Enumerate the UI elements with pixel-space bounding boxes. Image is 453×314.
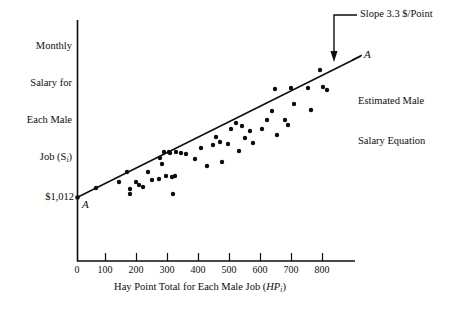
data-point [270,109,274,113]
regression-line-label-left: A [82,198,89,211]
data-point [260,127,264,131]
x-axis-ticks [106,253,323,261]
data-point [229,127,233,131]
data-point [168,151,172,155]
data-point [157,177,161,181]
x-tick-label-700: 700 [284,264,299,275]
y-intercept-label: $1,012 [18,191,74,203]
data-point [141,185,145,189]
data-point [128,192,132,196]
data-point [286,123,290,127]
data-point [158,156,162,160]
leader-arrowhead [331,51,338,62]
data-point [289,86,293,90]
regression-line-label-right: A [364,48,371,61]
data-point [273,87,277,91]
data-point [193,157,197,161]
data-point [318,68,322,72]
data-point [125,170,129,174]
x-axis-title-close-paren: ) [282,281,286,292]
data-point [162,150,166,154]
data-point [234,121,238,125]
x-axis-title: Hay Point Total for Each Male Job (HPi) [0,281,400,295]
y-axis-title-line-3: Each Male [0,114,72,126]
data-point [220,160,224,164]
slope-leader-line [331,15,358,62]
y-axis-title-line-1: Monthly [0,40,72,52]
y-axis-title: Monthly Salary for Each Male Job (Si) [0,15,72,190]
x-tick-label-200: 200 [129,264,144,275]
equation-caption-line-1: Estimated Male [358,94,425,107]
data-point [173,174,177,178]
data-point [325,88,329,92]
data-point [251,141,255,145]
x-tick-label-0: 0 [75,264,80,275]
data-point [174,150,178,154]
x-tick-label-100: 100 [98,264,113,275]
data-point [199,146,203,150]
x-tick-label-400: 400 [191,264,206,275]
data-point [306,86,310,90]
data-point [164,174,168,178]
data-point [275,133,279,137]
y-axis-title-line-2: Salary for [0,77,72,89]
data-point [184,152,188,156]
y-axis-title-line-4-text: Job (S [40,151,67,162]
scatter-points [94,68,329,196]
data-point [179,151,183,155]
slope-annotation-label: Slope 3.3 $/Point [360,8,433,20]
estimated-equation-caption: Estimated Male Salary Equation [358,68,425,173]
equation-label-connector [352,55,362,60]
data-point [146,170,150,174]
data-point [205,164,209,168]
scatter-plot-figure: Monthly Salary for Each Male Job (Si) $1… [0,0,453,314]
x-axis-title-variable: HP [266,281,280,292]
data-point [94,186,98,190]
data-point [226,142,230,146]
y-axis-title-close-paren: ) [69,151,73,162]
y-axis-title-line-4: Job (Si) [0,151,72,165]
data-point [243,136,247,140]
x-axis-title-prefix: Hay Point Total for Each Male Job ( [114,281,266,292]
data-point [128,187,132,191]
data-point [117,180,121,184]
data-point [321,85,325,89]
data-point [240,124,244,128]
data-point [265,118,269,122]
data-point [150,178,154,182]
data-point [160,162,164,166]
x-tick-label-500: 500 [222,264,237,275]
data-point [292,102,296,106]
data-point [218,140,222,144]
x-tick-label-600: 600 [253,264,268,275]
data-point [237,149,241,153]
data-point [214,135,218,139]
x-tick-label-300: 300 [160,264,175,275]
regression-line [77,56,361,198]
data-point [283,118,287,122]
data-point [137,183,141,187]
data-point [211,143,215,147]
data-point [309,108,313,112]
equation-caption-line-2: Salary Equation [358,134,425,147]
x-tick-label-800: 800 [315,264,330,275]
data-point [171,192,175,196]
data-point [248,129,252,133]
intercept-point [75,195,80,200]
